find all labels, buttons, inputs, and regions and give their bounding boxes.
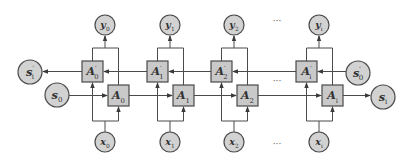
output-node-y1: y1	[160, 15, 180, 35]
ellipsis-2: ···	[273, 139, 282, 149]
backward-cell-0: A′0	[82, 61, 103, 82]
ellipsis-0: ···	[273, 16, 282, 26]
input-node-x1: x1	[160, 132, 180, 152]
state-forward-final: si	[371, 85, 395, 109]
output-node-y2: y2	[224, 15, 244, 35]
output-node-yi: yi	[309, 15, 329, 35]
forward-cell-2: A2	[237, 85, 258, 106]
input-node-xi: xi	[309, 132, 329, 152]
forward-cell-0: A0	[108, 85, 129, 106]
forward-cell-i: Ai	[322, 85, 343, 106]
output-node-y0: y0	[95, 15, 115, 35]
node-label: A′i	[300, 65, 312, 81]
nodes: A′0A0y0x0A′1A1y1x1A′2A2y2x2A′iAiyixis′is…	[18, 15, 395, 152]
ellipsis-1: ···	[273, 76, 282, 86]
backward-cell-2: A′2	[211, 61, 232, 82]
backward-cell-i: A′i	[296, 61, 317, 82]
birnn-diagram: A′0A0y0x0A′1A1y1x1A′2A2y2x2A′iAiyixis′is…	[0, 0, 414, 165]
backward-cell-1: A′1	[147, 61, 168, 82]
input-node-x2: x2	[224, 132, 244, 152]
state-forward-initial: s0	[45, 83, 69, 107]
state-backward-initial: s′0	[346, 61, 370, 85]
state-backward-final: s′i	[18, 60, 42, 84]
forward-cell-1: A1	[173, 85, 194, 106]
input-node-x0: x0	[95, 132, 115, 152]
node-label: s′i	[26, 64, 35, 81]
connections	[43, 36, 370, 132]
